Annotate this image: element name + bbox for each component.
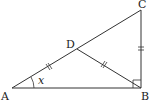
label-c: C <box>138 0 146 11</box>
angle-label-x: x <box>38 74 45 87</box>
segment-db <box>77 49 141 88</box>
triangle-diagram: A B C D x <box>0 0 152 101</box>
label-b: B <box>141 90 149 101</box>
label-a: A <box>0 90 10 101</box>
label-d: D <box>66 38 75 51</box>
angle-arc-a <box>31 77 34 88</box>
